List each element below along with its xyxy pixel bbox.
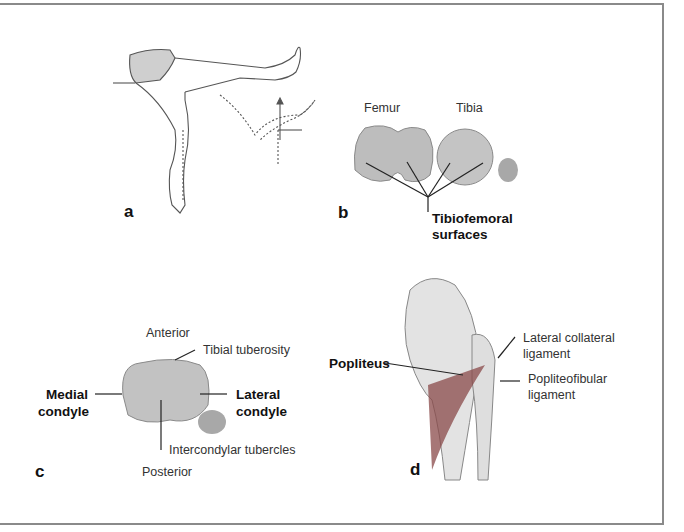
tibiofemoral-label: Tibiofemoral (432, 211, 513, 226)
tibial-plateau (95, 350, 227, 450)
popliteofibular-label: Popliteofibular (528, 372, 607, 387)
panel-letter-c: c (35, 462, 44, 482)
medial-condyle-label-2: condyle (38, 404, 89, 419)
anatomy-illustrations (0, 0, 684, 532)
intercondylar-label: Intercondylar tubercles (169, 443, 295, 458)
tibial-tuberosity-label: Tibial tuberosity (203, 343, 290, 358)
surfaces-label: surfaces (432, 227, 488, 242)
lateral-condyle-label: Lateral (236, 387, 280, 402)
femur-label: Femur (364, 101, 400, 116)
lateral-collateral-label: Lateral collateral (523, 331, 615, 346)
leg-extension-illustration (113, 47, 315, 213)
medial-condyle-label: Medial (46, 387, 88, 402)
femur-tibia-surfaces (354, 126, 518, 212)
posterior-label: Posterior (142, 465, 192, 480)
panel-letter-b: b (338, 203, 348, 223)
anterior-label: Anterior (146, 326, 190, 341)
posterior-knee (385, 279, 520, 480)
panel-letter-a: a (124, 202, 133, 222)
panel-letter-d: d (410, 460, 420, 480)
tibia-label: Tibia (456, 101, 483, 116)
lateral-collateral-label-2: ligament (523, 347, 570, 362)
popliteofibular-label-2: ligament (528, 388, 575, 403)
lateral-condyle-label-2: condyle (236, 404, 287, 419)
popliteus-label: Popliteus (329, 356, 390, 371)
